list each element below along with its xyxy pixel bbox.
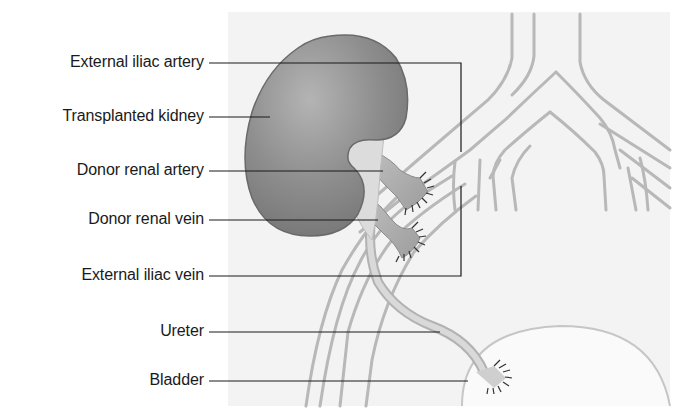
label-external-iliac-vein: External iliac vein — [81, 266, 204, 284]
label-transplanted-kidney: Transplanted kidney — [62, 107, 204, 125]
label-ureter: Ureter — [160, 322, 204, 340]
kidney-transplant-diagram: External iliac artery Transplanted kidne… — [0, 0, 683, 416]
label-bladder: Bladder — [150, 371, 204, 389]
label-donor-renal-artery: Donor renal artery — [77, 161, 204, 179]
label-donor-renal-vein: Donor renal vein — [88, 210, 204, 228]
label-external-iliac-artery: External iliac artery — [70, 53, 204, 71]
